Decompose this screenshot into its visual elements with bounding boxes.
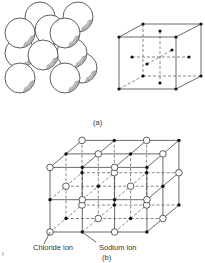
lattice-point: [158, 29, 161, 32]
sodium-ion: [129, 152, 132, 155]
sodium-ion: [129, 217, 132, 220]
sodium-ion: [81, 166, 84, 169]
chloride-ion: [160, 215, 167, 222]
lattice-point: [141, 22, 144, 25]
chloride-ion-label: Chloride ion: [33, 243, 73, 252]
sodium-ion-label: Sodium ion: [99, 243, 137, 252]
caption-b: (b): [102, 253, 112, 262]
sodium-ion: [113, 203, 116, 206]
chloride-ion: [47, 164, 54, 171]
sphere-outline: [28, 40, 58, 70]
caption-a: (a): [93, 118, 103, 127]
lattice-point: [199, 74, 202, 77]
sodium-ion: [64, 217, 67, 220]
fcc-sphere-packing: [5, 2, 97, 93]
cube-edge: [119, 24, 143, 37]
sphere: [5, 18, 35, 48]
chloride-ion: [95, 151, 102, 158]
sodium-ion: [113, 139, 116, 142]
sodium-ion: [97, 185, 100, 188]
chloride-ion: [111, 164, 118, 171]
nacl-lattice: [47, 137, 183, 235]
lattice-point: [187, 55, 190, 58]
sodium-ion: [48, 198, 51, 201]
sphere-outline: [50, 18, 80, 48]
sphere-outline: [5, 63, 35, 93]
chloride-ion: [176, 169, 183, 176]
lattice-point: [117, 87, 120, 90]
lattice-point: [158, 81, 161, 84]
sodium-ion: [145, 230, 148, 233]
lattice-point: [130, 55, 133, 58]
chloride-ion: [143, 137, 150, 144]
cube-hidden-edge: [119, 76, 143, 89]
lattice-point: [199, 22, 202, 25]
sodium-ion: [161, 185, 164, 188]
sphere: [5, 63, 35, 93]
sodium-pointer-line: [82, 232, 96, 242]
chloride-ion: [95, 215, 102, 222]
lattice-point: [117, 35, 120, 38]
lattice-point: [141, 74, 144, 77]
sphere: [50, 18, 80, 48]
chloride-ion: [63, 183, 70, 190]
sodium-ion: [145, 166, 148, 169]
lattice-point: [170, 48, 173, 51]
sodium-ion: [64, 152, 67, 155]
sodium-ion: [80, 171, 83, 174]
chloride-ion: [127, 183, 134, 190]
chloride-ion: [79, 137, 86, 144]
margin-mark: f: [2, 251, 4, 257]
sphere-outline: [50, 63, 80, 93]
cube-edge: [176, 76, 201, 89]
chloride-ion: [111, 229, 118, 236]
fcc-lattice-cube: [117, 22, 202, 90]
chloride-ion: [160, 151, 167, 158]
sphere-outline: [5, 18, 35, 48]
sodium-ion: [177, 203, 180, 206]
figure-canvas: (a) Chloride ion Sodium ion (b) f: [0, 0, 205, 263]
sphere: [50, 63, 80, 93]
sodium-ion: [113, 198, 116, 201]
sphere: [28, 40, 58, 70]
cube-edge: [176, 24, 201, 37]
chloride-ion: [79, 196, 86, 203]
lattice-point: [145, 62, 148, 65]
sodium-ion: [177, 139, 180, 142]
lattice-point: [174, 87, 177, 90]
lattice-point: [174, 35, 177, 38]
chloride-ion: [144, 196, 151, 203]
sodium-ion: [145, 171, 148, 174]
